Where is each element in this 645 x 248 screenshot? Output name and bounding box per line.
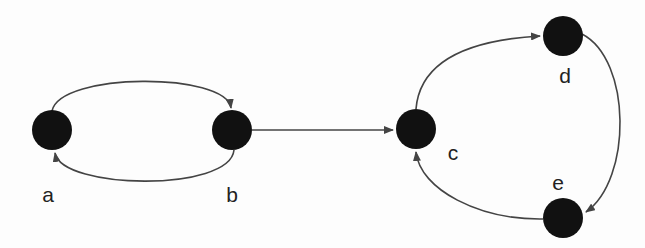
node-label-a: a: [42, 183, 54, 206]
edge-c-d: [416, 36, 540, 109]
labels-layer: abcde: [42, 64, 571, 206]
node-d: [543, 16, 583, 56]
edge-d-e: [582, 34, 620, 212]
edge-b-a: [55, 150, 234, 181]
node-a: [32, 110, 72, 150]
node-label-c: c: [448, 141, 459, 164]
graph-diagram: abcde: [0, 0, 645, 248]
edge-a-b: [52, 81, 231, 111]
graph-svg: abcde: [0, 0, 645, 248]
node-label-b: b: [226, 183, 238, 206]
node-label-e: e: [552, 171, 564, 194]
edges-layer: [52, 34, 620, 219]
node-c: [396, 109, 436, 149]
edge-e-c: [416, 152, 543, 219]
node-b: [212, 110, 252, 150]
node-label-d: d: [559, 64, 571, 87]
node-e: [543, 198, 583, 238]
nodes-layer: [32, 16, 583, 238]
